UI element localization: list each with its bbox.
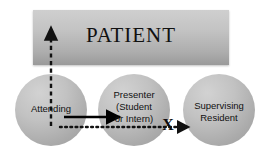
diagram-canvas: PATIENT Attending Presenter (Student or …: [0, 0, 267, 158]
connector-layer: [0, 0, 267, 158]
block-x-marker: X: [160, 116, 176, 134]
